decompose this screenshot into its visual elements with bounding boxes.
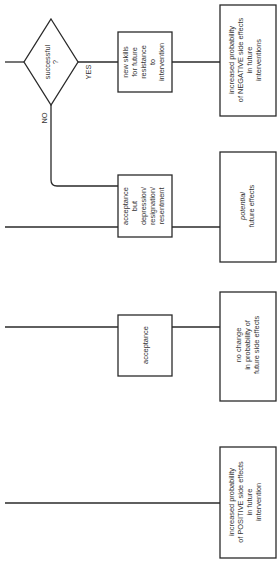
box-new-skills-line3: resistance [139,45,148,79]
box-new-skills-line5: intervention [157,43,166,81]
box-no-change-line2: in probability of [243,319,252,370]
box-new-skills-line1: new skills [121,46,130,78]
box-negative-line1: increased probability [227,26,236,94]
box-no-change-line1: no change [234,328,243,363]
box-depression-line4: resignation/ [148,186,157,225]
box-negative-line2: of NEGATIVE side effects [236,18,245,103]
box-positive-line3: in future [245,489,254,516]
connector-no [51,105,118,186]
box-potential-line1: potential [238,192,247,221]
box-positive-line4: intervention [254,483,263,521]
box-positive-line2: of POSITIVE side effects [236,461,245,543]
box-new-skills-line4: to [148,59,157,65]
box-potential-line2: future effects [247,184,256,227]
box-depression-line5: resentment [157,188,166,225]
box-positive-line1: increased probability [227,468,236,536]
decision-label-q: ? [51,60,60,64]
box-no-change-line3: future side effects [252,316,261,375]
no-label: NO [40,112,49,123]
box-depression-line2: but [130,201,139,211]
box-depression-line3: depression/ [139,186,148,225]
box-new-skills-line2: for future [130,47,139,77]
flowchart: successful ? YES new skills for future r… [0,0,279,587]
box-depression-line1: acceptance [121,187,130,225]
box-negative-line4: interventions [254,39,263,81]
box-acceptance-line1: acceptance [141,326,150,364]
box-negative-line3: in future [245,47,254,74]
yes-label: YES [84,65,93,80]
